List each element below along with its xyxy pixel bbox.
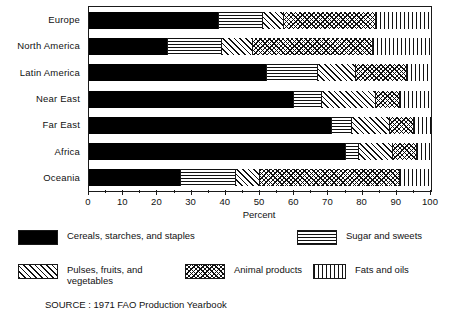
legend-item: Pulses, fruits, and vegetables xyxy=(18,264,143,286)
bar-row xyxy=(89,91,431,108)
x-tick xyxy=(88,190,89,195)
plot-area: EuropeNorth AmericaLatin AmericaNear Eas… xyxy=(0,0,452,218)
legend-swatch-horizontal-lines xyxy=(297,230,337,245)
x-tick-label: 90 xyxy=(391,196,402,207)
x-tick-minor xyxy=(345,190,346,193)
x-axis-title: Percent xyxy=(243,209,276,220)
x-tick-label: 40 xyxy=(220,196,231,207)
bar-segment xyxy=(260,169,400,186)
bar-segment xyxy=(407,64,431,81)
category-label-near-east: Near East xyxy=(36,93,80,104)
x-axis: 0102030405060708090100 Percent xyxy=(88,190,430,218)
legend-swatch-diagonal-hatch xyxy=(18,264,58,279)
legend-swatch-vertical-lines xyxy=(313,264,346,279)
x-tick xyxy=(362,190,363,195)
x-tick-label: 100 xyxy=(422,196,438,207)
bar-segment xyxy=(352,117,390,134)
x-tick-label: 10 xyxy=(117,196,128,207)
bar-segment xyxy=(89,91,294,108)
bar-segment xyxy=(373,38,431,55)
legend-label: Sugar and sweets xyxy=(346,230,422,241)
bar-segment xyxy=(376,91,400,108)
x-tick-label: 20 xyxy=(151,196,162,207)
x-tick-minor xyxy=(174,190,175,193)
bar-segment xyxy=(400,169,431,186)
category-label-europe: Europe xyxy=(48,14,80,25)
bar-segment xyxy=(89,169,181,186)
x-tick xyxy=(396,190,397,195)
bar-segment xyxy=(393,143,417,160)
bar-row xyxy=(89,38,431,55)
legend-item: Fats and oils xyxy=(313,264,409,279)
category-label-oceania: Oceania xyxy=(43,171,80,182)
bar-segment xyxy=(263,12,284,29)
bar-segment xyxy=(267,64,318,81)
x-tick xyxy=(122,190,123,195)
legend-swatch-cross-hatch xyxy=(185,264,225,279)
x-tick xyxy=(191,190,192,195)
stacked-bar-chart: EuropeNorth AmericaLatin AmericaNear Eas… xyxy=(0,0,452,320)
x-tick xyxy=(156,190,157,195)
x-tick-minor xyxy=(105,190,106,193)
bar-row xyxy=(89,117,431,134)
source-note: SOURCE : 1971 FAO Production Yearbook xyxy=(45,299,227,310)
bar-segment xyxy=(417,143,431,160)
category-label-latin-america: Latin America xyxy=(20,66,80,77)
x-tick xyxy=(430,190,431,195)
legend-swatch-solid-black xyxy=(18,230,58,245)
legend: Cereals, starches, and staplesSugar and … xyxy=(0,228,452,292)
bar-segment xyxy=(181,169,236,186)
x-tick-label: 50 xyxy=(254,196,265,207)
x-tick-minor xyxy=(413,190,414,193)
x-tick-label: 80 xyxy=(356,196,367,207)
bar-segment xyxy=(376,12,431,29)
bar-segment xyxy=(318,64,356,81)
legend-item: Cereals, starches, and staples xyxy=(18,230,195,245)
bar-row xyxy=(89,169,431,186)
category-label-africa: Africa xyxy=(55,145,80,156)
category-label-north-america: North America xyxy=(17,40,80,51)
category-label-far-east: Far East xyxy=(43,119,81,130)
bar-segment xyxy=(89,143,346,160)
legend-label: Animal products xyxy=(234,264,302,275)
x-tick-minor xyxy=(139,190,140,193)
bar-segment xyxy=(322,91,377,108)
category-axis-labels: EuropeNorth AmericaLatin AmericaNear Eas… xyxy=(0,6,86,190)
bar-segment xyxy=(89,64,267,81)
x-tick xyxy=(293,190,294,195)
legend-item: Animal products xyxy=(185,264,302,279)
bar-segment xyxy=(359,143,393,160)
legend-label: Pulses, fruits, and vegetables xyxy=(67,264,143,286)
x-tick-label: 30 xyxy=(185,196,196,207)
bar-segment xyxy=(294,91,321,108)
plot-frame xyxy=(88,6,432,192)
bar-row xyxy=(89,143,431,160)
x-tick-label: 0 xyxy=(85,196,90,207)
bar-segment xyxy=(222,38,253,55)
x-tick-minor xyxy=(276,190,277,193)
bar-segment xyxy=(400,91,431,108)
x-tick-minor xyxy=(379,190,380,193)
bar-segment xyxy=(253,38,373,55)
x-tick-minor xyxy=(310,190,311,193)
bar-segment xyxy=(414,117,431,134)
bar-segment xyxy=(168,38,223,55)
bar-segment xyxy=(89,12,219,29)
bar-segment xyxy=(390,117,414,134)
legend-item: Sugar and sweets xyxy=(297,230,422,245)
x-tick xyxy=(327,190,328,195)
bar-segment xyxy=(219,12,263,29)
bar-segment xyxy=(346,143,360,160)
bar-segment xyxy=(89,38,168,55)
x-tick xyxy=(259,190,260,195)
bar-row xyxy=(89,64,431,81)
x-tick-minor xyxy=(208,190,209,193)
bar-row xyxy=(89,12,431,29)
x-tick xyxy=(225,190,226,195)
bar-segment xyxy=(332,117,353,134)
bar-segment xyxy=(356,64,407,81)
x-tick-label: 60 xyxy=(288,196,299,207)
legend-label: Cereals, starches, and staples xyxy=(67,230,195,241)
legend-label: Fats and oils xyxy=(355,264,409,275)
bar-segment xyxy=(236,169,260,186)
